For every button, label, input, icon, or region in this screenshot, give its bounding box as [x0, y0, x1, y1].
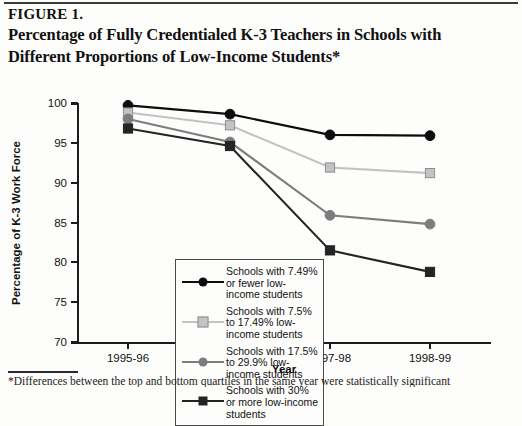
- y-tick-label: 75: [54, 296, 67, 308]
- figure-title: Percentage of Fully Credentialed K-3 Tea…: [8, 24, 508, 68]
- data-point: [325, 130, 335, 140]
- y-tick: [71, 341, 78, 343]
- data-point: [325, 210, 335, 220]
- series-line: [128, 113, 430, 174]
- y-tick-label: 100: [48, 97, 67, 109]
- legend-label: Schools with 7.49% or fewer low-income s…: [226, 265, 319, 301]
- data-point: [225, 141, 234, 150]
- series-2: [123, 108, 434, 178]
- legend-key: [180, 305, 226, 339]
- x-axis-title: Year: [78, 363, 490, 375]
- y-axis-title: Percentage of K-3 Work Force: [8, 103, 24, 342]
- footnote-text: *Differences between the top and bottom …: [8, 375, 513, 387]
- legend-key: [180, 384, 226, 418]
- data-point: [425, 267, 434, 276]
- data-point: [123, 114, 133, 124]
- y-tick: [71, 142, 78, 144]
- y-tick-label: 80: [54, 256, 67, 268]
- x-tick: [429, 342, 431, 349]
- y-axis-title-text: Percentage of K-3 Work Force: [10, 140, 22, 304]
- legend-square-marker-icon: [199, 397, 208, 406]
- data-point: [425, 131, 435, 141]
- legend-key: [180, 265, 226, 299]
- y-tick: [71, 222, 78, 224]
- y-tick-label: 95: [54, 137, 67, 149]
- x-tick: [329, 342, 331, 349]
- y-tick-label: 90: [54, 177, 67, 189]
- plot-area: 707580859095100 1995-961996-971997-98199…: [78, 103, 490, 342]
- data-point: [425, 219, 435, 229]
- legend-label: Schools with 30% or more low-income stud…: [226, 384, 319, 420]
- legend-circle-marker-icon: [199, 278, 208, 287]
- series-line: [128, 128, 430, 271]
- data-point: [325, 246, 334, 255]
- legend-item: Schools with 7.5% to 17.49% low-income s…: [180, 305, 319, 341]
- y-tick-label: 70: [54, 336, 67, 348]
- y-tick: [71, 301, 78, 303]
- series-line: [128, 105, 430, 135]
- legend-item: Schools with 7.49% or fewer low-income s…: [180, 265, 319, 301]
- data-point: [425, 169, 434, 178]
- x-tick: [127, 342, 129, 349]
- legend-label: Schools with 7.5% to 17.49% low-income s…: [226, 305, 319, 341]
- y-tick: [71, 261, 78, 263]
- legend-item: Schools with 30% or more low-income stud…: [180, 384, 319, 420]
- y-tick: [71, 182, 78, 184]
- chart-legend: Schools with 7.49% or fewer low-income s…: [175, 259, 324, 426]
- page-top-rule: [4, 2, 518, 4]
- data-point: [123, 124, 132, 133]
- data-point: [225, 109, 235, 119]
- data-point: [225, 121, 234, 130]
- y-tick: [71, 102, 78, 104]
- footnote-rule: [8, 371, 78, 373]
- data-point: [325, 163, 334, 172]
- figure-label: FIGURE 1.: [8, 6, 83, 23]
- y-tick-label: 85: [54, 217, 67, 229]
- legend-square-marker-icon: [198, 316, 209, 327]
- series-1: [123, 100, 435, 140]
